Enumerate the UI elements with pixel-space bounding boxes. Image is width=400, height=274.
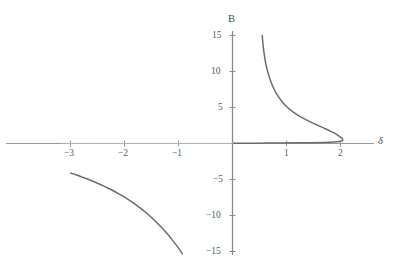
curve-lower-branch (71, 173, 183, 254)
y-axis-title: B (228, 14, 235, 25)
chart-figure: B δ −3 −2 −1 1 2 15 10 5 −5 −10 −15 (0, 0, 400, 274)
x-tick-label-minus2: −2 (118, 149, 128, 159)
y-tick-label-5: 5 (218, 103, 223, 113)
x-tick-label-minus1: −1 (172, 149, 182, 159)
curve-upper-branch (234, 36, 343, 144)
y-tick-label-minus5: −5 (213, 175, 223, 185)
x-axis-title: δ (378, 136, 383, 147)
plot-area (0, 0, 400, 274)
y-tick-label-15: 15 (212, 31, 222, 41)
x-tick-label-2: 2 (338, 149, 343, 159)
y-tick-label-10: 10 (211, 67, 221, 77)
x-tick-label-minus3: −3 (64, 149, 74, 159)
y-tick-label-minus15: −15 (206, 247, 221, 257)
x-tick-label-1: 1 (284, 149, 289, 159)
y-tick-label-minus10: −10 (206, 211, 221, 221)
